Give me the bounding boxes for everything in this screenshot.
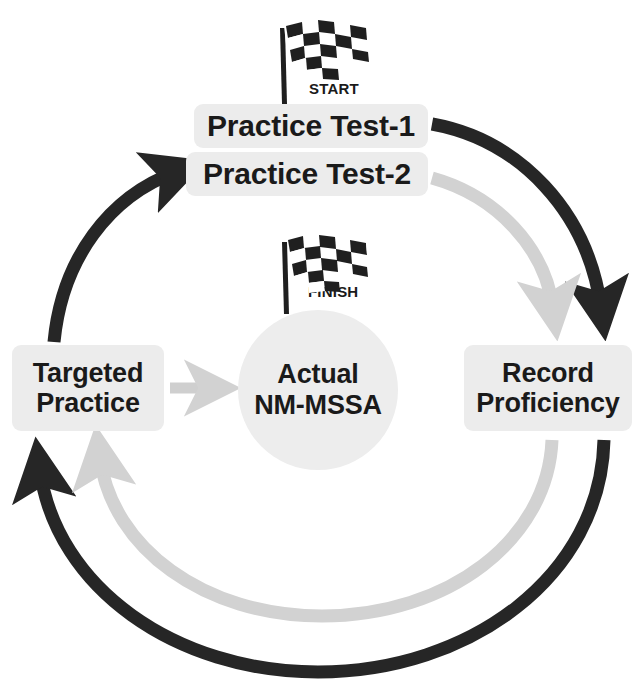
node-targeted-practice-line2: Practice bbox=[36, 388, 139, 418]
start-flag bbox=[262, 12, 386, 104]
node-record-proficiency-line1: Record bbox=[502, 358, 594, 388]
arrow-test1-to-record bbox=[432, 124, 601, 308]
node-practice-test-2[interactable]: Practice Test-2 bbox=[186, 152, 428, 196]
diagram-canvas: START bbox=[0, 0, 636, 695]
finish-flag bbox=[266, 228, 384, 314]
arrow-test2-to-record bbox=[432, 178, 553, 308]
node-record-proficiency-label: Record Proficiency bbox=[476, 358, 619, 418]
node-actual-assessment-label: Actual NM-MSSA bbox=[254, 359, 382, 421]
node-practice-test-1-label: Practice Test-1 bbox=[207, 109, 415, 143]
arrow-record-to-targeted-outer bbox=[40, 440, 604, 672]
node-practice-test-1[interactable]: Practice Test-1 bbox=[194, 104, 428, 148]
node-practice-test-2-label: Practice Test-2 bbox=[203, 157, 411, 191]
node-actual-assessment[interactable]: Actual NM-MSSA bbox=[238, 310, 398, 470]
node-targeted-practice-line1: Targeted bbox=[33, 358, 143, 388]
node-targeted-practice[interactable]: Targeted Practice bbox=[12, 345, 164, 431]
node-record-proficiency[interactable]: Record Proficiency bbox=[464, 345, 632, 431]
checkered-flag-icon bbox=[266, 228, 384, 314]
node-actual-assessment-line1: Actual bbox=[277, 359, 358, 389]
arrow-targeted-to-test2 bbox=[54, 172, 176, 342]
checkered-flag-icon bbox=[262, 12, 386, 104]
node-targeted-practice-label: Targeted Practice bbox=[33, 358, 143, 418]
node-actual-assessment-line2: NM-MSSA bbox=[254, 390, 382, 420]
node-record-proficiency-line2: Proficiency bbox=[476, 388, 619, 418]
